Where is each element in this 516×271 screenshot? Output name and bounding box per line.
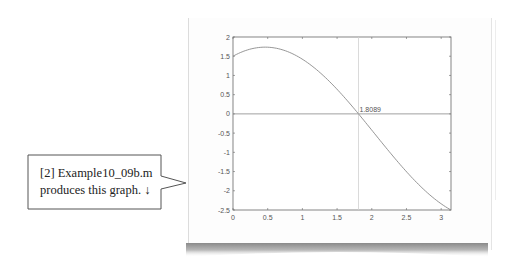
callout-text: [2] Example10_09b.m produces this graph.… — [40, 165, 170, 199]
callout-box — [0, 0, 516, 271]
callout-line-2: produces this graph. ↓ — [40, 182, 170, 199]
callout-line-1: [2] Example10_09b.m — [40, 165, 170, 182]
